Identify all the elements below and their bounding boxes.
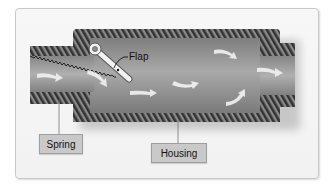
spring-label: Spring (39, 134, 83, 154)
flap-label: Flap (129, 51, 148, 62)
housing-label: Housing (151, 143, 207, 163)
